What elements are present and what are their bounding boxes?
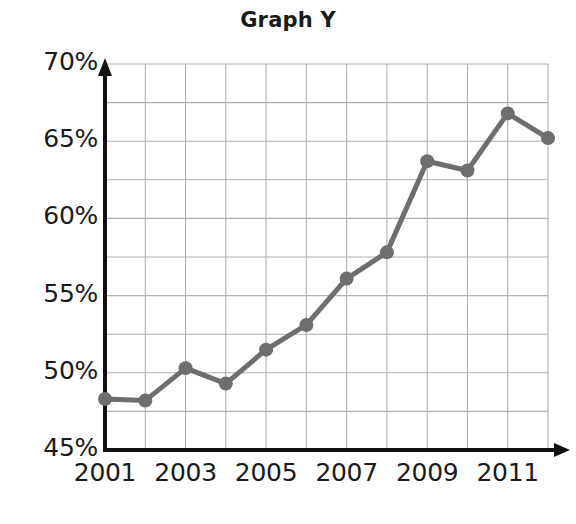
data-point-marker: [219, 377, 233, 391]
data-point-marker: [138, 394, 152, 408]
y-axis-arrowhead: [98, 58, 112, 76]
x-tick-label: 2007: [307, 458, 387, 487]
chart-screenshot: Graph Y 45%50%55%60%65%70% 2001200320052…: [0, 0, 576, 524]
data-point-marker: [541, 131, 555, 145]
data-point-marker: [460, 164, 474, 178]
x-tick-label: 2009: [387, 458, 467, 487]
y-tick-label: 70%: [10, 47, 98, 76]
x-tick-label: 2011: [468, 458, 548, 487]
y-tick-label: 55%: [10, 279, 98, 308]
y-tick-label: 50%: [10, 356, 98, 385]
data-point-marker: [420, 154, 434, 168]
y-tick-label: 65%: [10, 124, 98, 153]
data-point-marker: [340, 272, 354, 286]
data-point-marker: [501, 106, 515, 120]
data-point-marker: [98, 392, 112, 406]
x-tick-label: 2005: [226, 458, 306, 487]
data-point-marker: [179, 361, 193, 375]
x-tick-label: 2001: [65, 458, 145, 487]
x-tick-label: 2003: [146, 458, 226, 487]
data-point-marker: [299, 318, 313, 332]
x-axis-arrowhead: [554, 443, 570, 457]
data-point-marker: [259, 343, 273, 357]
grid-lines: [105, 64, 548, 450]
y-tick-label: 60%: [10, 201, 98, 230]
data-point-marker: [380, 245, 394, 259]
